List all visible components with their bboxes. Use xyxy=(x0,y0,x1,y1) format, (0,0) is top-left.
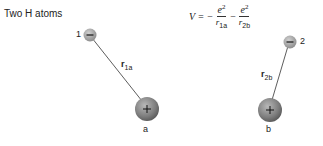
diagram-canvas xyxy=(0,0,323,146)
nucleus-b-icon xyxy=(258,98,282,122)
formula-minus-2: − xyxy=(230,11,236,22)
electron-2-icon xyxy=(284,36,297,49)
electron-1-label: 1 xyxy=(76,29,81,39)
distance-label-2b: r2b xyxy=(261,69,272,81)
formula-lhs: V = xyxy=(189,11,204,22)
nucleus-b-label: b xyxy=(266,124,271,134)
distance-line-1a xyxy=(92,38,142,101)
nucleus-a-icon xyxy=(135,97,159,121)
formula-term-1: e2 r1a xyxy=(216,4,227,29)
diagram-title: Two H atoms xyxy=(4,8,62,19)
electron-1-icon xyxy=(84,29,97,42)
potential-formula: V = − e2 r1a − e2 r2b xyxy=(189,4,250,29)
electron-2-label: 2 xyxy=(300,36,305,46)
formula-term-2: e2 r2b xyxy=(239,4,250,29)
nucleus-a-label: a xyxy=(143,124,148,134)
formula-minus-1: − xyxy=(207,11,213,22)
distance-line-2b xyxy=(272,46,288,100)
distance-label-1a: r1a xyxy=(121,59,132,71)
